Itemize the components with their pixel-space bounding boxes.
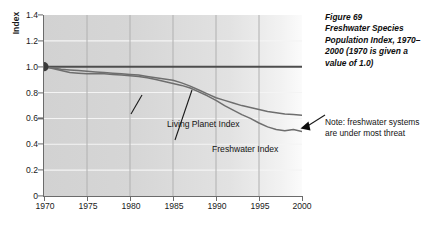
figure-caption-body: Freshwater Species Population Index, 197… <box>325 23 423 69</box>
y-tick-label: 0.2 <box>16 165 38 175</box>
series-label-freshwater-index: Freshwater Index <box>212 144 278 156</box>
x-tick-label-1985: 1985 <box>154 201 194 211</box>
y-tick-label: 0.6 <box>16 113 38 123</box>
leader-line-freshwater <box>175 90 192 140</box>
plot-area: Living Planet Index Freshwater Index <box>44 15 302 196</box>
x-tick-label-1990: 1990 <box>197 201 237 211</box>
x-tick-label-1980: 1980 <box>111 201 151 211</box>
y-tick-label: 0.4 <box>16 139 38 149</box>
y-axis-line <box>43 15 44 197</box>
y-tick-label: 1.4 <box>16 10 38 20</box>
x-tick-label-1970: 1970 <box>25 201 65 211</box>
y-tick-label: 1.2 <box>16 36 38 46</box>
x-tick-label-1975: 1975 <box>68 201 108 211</box>
y-tick-label: 0.8 <box>16 88 38 98</box>
series-label-living-planet-index: Living Planet Index <box>167 119 240 131</box>
x-tick-label-2000: 2000 <box>282 201 322 211</box>
figure-caption: Figure 69 Freshwater Species Population … <box>325 12 423 69</box>
x-tick-label-1995: 1995 <box>240 201 280 211</box>
y-tick-label: 0 <box>16 191 38 201</box>
leader-line-living-planet <box>131 95 142 114</box>
annotation-leader-lines <box>131 90 192 140</box>
figure-container: Index 1.4 1.2 1.0 0.8 0.6 0.4 0.2 0 <box>0 0 425 228</box>
y-tick-label: 1.0 <box>16 62 38 72</box>
note-arrow-icon <box>296 112 328 138</box>
figure-note: Note: freshwater systems are under most … <box>325 117 424 140</box>
figure-caption-title: Figure 69 <box>325 12 423 23</box>
vertical-gridlines <box>87 15 259 196</box>
baseline-marker-1970 <box>44 62 49 71</box>
plot-svg <box>44 15 302 196</box>
